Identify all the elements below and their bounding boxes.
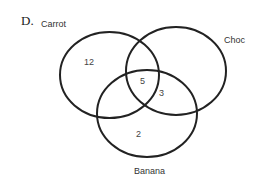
banana-circle	[97, 70, 197, 157]
set-label-banana: Banana	[134, 167, 165, 175]
option-letter: D.	[21, 14, 34, 27]
venn-diagram	[0, 0, 258, 175]
set-label-choc: Choc	[224, 36, 245, 45]
venn-diagram-figure: D. Carrot Choc Banana 12 5 3 2	[0, 0, 258, 175]
set-label-carrot: Carrot	[41, 20, 66, 29]
region-count-carrot-only: 12	[84, 58, 94, 67]
region-count-choc-banana: 3	[159, 89, 164, 98]
region-count-all-three: 5	[140, 77, 145, 86]
region-count-banana-only: 2	[136, 130, 141, 139]
